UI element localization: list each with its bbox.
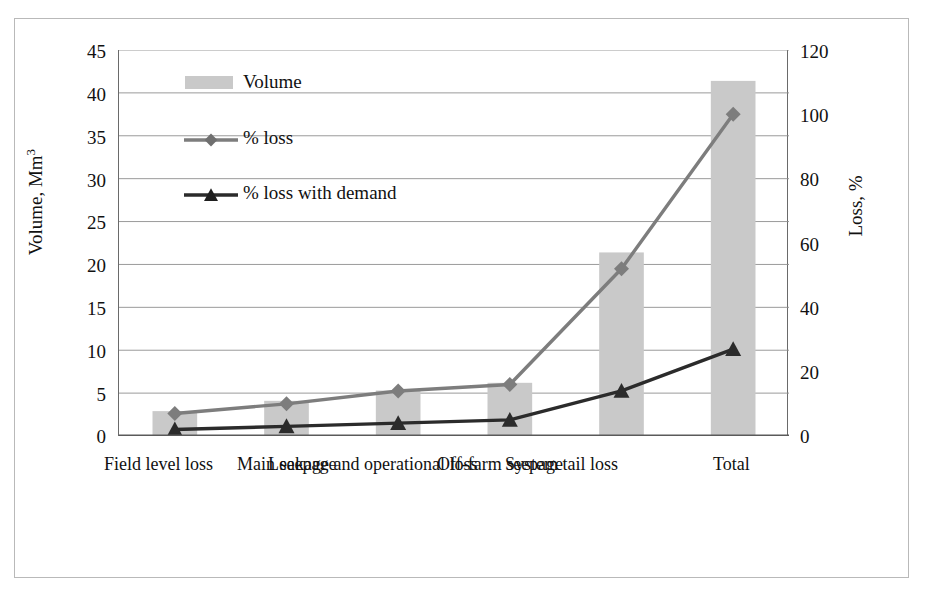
legend-label-percent-loss: % loss bbox=[243, 128, 293, 147]
gridlines bbox=[119, 50, 789, 436]
y-tick-right-0: 0 bbox=[800, 427, 846, 446]
legend-swatch-volume bbox=[185, 76, 233, 89]
y-tick-right-100: 100 bbox=[800, 106, 846, 125]
legend-marker-percent-loss bbox=[183, 131, 239, 149]
y-axis-left-title-text: Volume, Mm bbox=[25, 155, 46, 255]
y-tick-left-35: 35 bbox=[62, 128, 106, 147]
line-series-percent-loss bbox=[167, 107, 740, 421]
y-tick-left-5: 5 bbox=[62, 385, 106, 404]
legend-marker-percent-loss-with-demand bbox=[183, 186, 239, 204]
legend-label-volume: Volume bbox=[243, 72, 302, 91]
y-tick-right-120: 120 bbox=[800, 42, 846, 61]
x-tick-label-4: System tail loss bbox=[505, 455, 618, 473]
chart-figure: Volume, Mm3 Loss, % 45 40 35 30 25 20 15… bbox=[0, 0, 927, 599]
y-axis-left-title-exponent: 3 bbox=[23, 149, 38, 155]
y-tick-right-20: 20 bbox=[800, 363, 846, 382]
plot-area bbox=[118, 50, 788, 436]
x-tick-label-0: Field level loss bbox=[104, 455, 213, 473]
y-tick-right-60: 60 bbox=[800, 235, 846, 254]
y-axis-left-title: Volume, Mm3 bbox=[23, 149, 47, 255]
y-tick-left-30: 30 bbox=[62, 171, 106, 190]
y-tick-left-0: 0 bbox=[62, 427, 106, 446]
bar-4 bbox=[599, 252, 644, 436]
plot-canvas bbox=[119, 50, 789, 436]
y-tick-left-40: 40 bbox=[62, 85, 106, 104]
y-tick-right-40: 40 bbox=[800, 299, 846, 318]
y-axis-right-title: Loss, % bbox=[845, 175, 867, 236]
y-tick-left-25: 25 bbox=[62, 213, 106, 232]
y-tick-right-80: 80 bbox=[800, 170, 846, 189]
y-tick-left-45: 45 bbox=[62, 42, 106, 61]
x-tick-label-5: Total bbox=[713, 455, 750, 473]
y-tick-left-10: 10 bbox=[62, 342, 106, 361]
y-tick-left-15: 15 bbox=[62, 299, 106, 318]
y-tick-left-20: 20 bbox=[62, 256, 106, 275]
legend-label-percent-loss-with-demand: % loss with demand bbox=[243, 183, 397, 202]
